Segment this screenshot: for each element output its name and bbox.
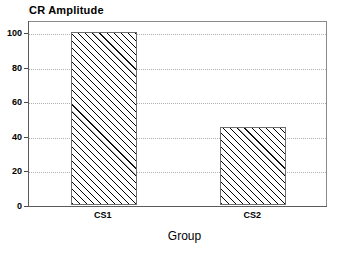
y-axis-tick-label: 20	[12, 167, 22, 176]
y-axis-tick-labels: 020406080100	[0, 0, 22, 254]
bar-chart: CR Amplitude 020406080100 CS1CS2 Group	[0, 0, 345, 254]
y-axis-tick-label: 0	[17, 202, 22, 211]
y-axis-tick-label: 80	[12, 64, 22, 73]
y-axis-tick-label: 100	[7, 29, 22, 38]
y-axis-tick-mark	[24, 33, 28, 34]
y-axis-tick-label: 60	[12, 98, 22, 107]
x-axis-title-label: Group	[168, 229, 201, 243]
y-axis-tick-mark	[24, 137, 28, 138]
plot-area	[28, 21, 327, 207]
y-axis-tick-mark	[24, 171, 28, 172]
bar	[220, 127, 286, 205]
y-axis-line	[28, 21, 29, 207]
x-axis-tick-label: CS2	[243, 210, 261, 220]
x-axis-tick-label: CS1	[94, 210, 112, 220]
y-axis-tick-mark	[24, 102, 28, 103]
y-axis-tick-mark	[24, 68, 28, 69]
y-axis-tick-label: 40	[12, 133, 22, 142]
bar	[71, 32, 137, 205]
chart-title: CR Amplitude	[29, 3, 104, 17]
x-axis-title: Group	[0, 229, 345, 243]
x-axis-line	[28, 206, 327, 207]
